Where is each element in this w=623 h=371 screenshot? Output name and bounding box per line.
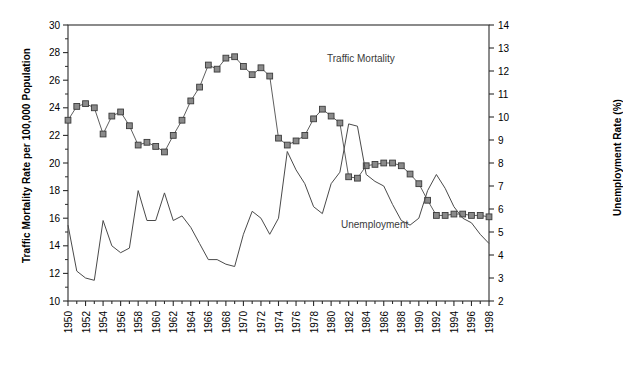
data-point-marker — [346, 174, 352, 180]
data-point-marker — [486, 214, 492, 220]
data-point-marker — [398, 163, 404, 169]
data-point-marker — [469, 213, 475, 219]
right-tick-label: 6 — [498, 204, 504, 215]
data-point-marker — [91, 105, 97, 111]
data-point-marker — [390, 160, 396, 166]
data-point-marker — [109, 113, 115, 119]
right-tick-label: 4 — [498, 250, 504, 261]
x-tick-label: 1960 — [151, 311, 162, 334]
data-point-marker — [337, 120, 343, 126]
x-tick-label: 1962 — [168, 311, 179, 334]
right-tick-label: 9 — [498, 135, 504, 146]
data-point-marker — [118, 109, 124, 115]
right-tick-label: 12 — [498, 66, 510, 77]
data-point-marker — [311, 116, 317, 122]
x-tick-label: 1974 — [274, 311, 285, 334]
left-tick-label: 10 — [49, 296, 61, 307]
left-tick-label: 30 — [49, 20, 61, 31]
x-tick-label: 1986 — [379, 311, 390, 334]
x-tick-label: 1984 — [361, 311, 372, 334]
data-point-marker — [433, 213, 439, 219]
data-point-marker — [477, 213, 483, 219]
right-axis-ticks: 234567891011121314 — [489, 20, 510, 307]
data-point-marker — [284, 142, 290, 148]
right-tick-label: 5 — [498, 227, 504, 238]
left-tick-label: 24 — [49, 102, 61, 113]
right-tick-label: 7 — [498, 181, 504, 192]
left-axis-ticks: 1012141618202224262830 — [49, 20, 68, 307]
data-point-marker — [293, 138, 299, 144]
data-point-marker — [407, 171, 413, 177]
annotation-unemployment: Unemployment — [341, 219, 408, 230]
right-tick-label: 8 — [498, 158, 504, 169]
x-tick-label: 1958 — [133, 311, 144, 334]
data-point-marker — [267, 73, 273, 79]
left-tick-label: 12 — [49, 268, 61, 279]
data-point-marker — [205, 62, 211, 68]
x-tick-label: 1990 — [414, 311, 425, 334]
data-point-marker — [100, 131, 106, 137]
x-tick-label: 1970 — [238, 311, 249, 334]
right-tick-label: 2 — [498, 296, 504, 307]
x-tick-label: 1976 — [291, 311, 302, 334]
data-point-marker — [451, 211, 457, 217]
x-tick-label: 1968 — [221, 311, 232, 334]
left-tick-label: 20 — [49, 158, 61, 169]
data-point-marker — [214, 66, 220, 72]
left-tick-label: 18 — [49, 185, 61, 196]
annotation-traffic-mortality: Traffic Mortality — [327, 53, 395, 64]
data-point-marker — [249, 72, 255, 78]
data-point-marker — [153, 144, 159, 150]
series-annotations: Traffic MortalityUnemployment — [327, 53, 408, 230]
left-tick-label: 16 — [49, 213, 61, 224]
x-tick-label: 1972 — [256, 311, 267, 334]
left-tick-label: 26 — [49, 75, 61, 86]
data-point-marker — [241, 64, 247, 70]
data-point-marker — [276, 135, 282, 141]
x-axis-ticks: 1950195219541956195819601962196419661968… — [63, 301, 495, 333]
right-tick-label: 3 — [498, 273, 504, 284]
left-tick-label: 28 — [49, 47, 61, 58]
x-tick-label: 1988 — [396, 311, 407, 334]
x-tick-label: 1992 — [431, 311, 442, 334]
right-tick-label: 11 — [498, 89, 509, 100]
x-tick-label: 1978 — [309, 311, 320, 334]
x-tick-label: 1950 — [63, 311, 74, 334]
x-tick-label: 1994 — [449, 311, 460, 334]
x-tick-label: 1952 — [81, 311, 92, 334]
data-point-marker — [319, 106, 325, 112]
x-tick-label: 1980 — [326, 311, 337, 334]
data-point-marker — [179, 117, 185, 123]
left-tick-label: 14 — [49, 240, 61, 251]
data-point-marker — [74, 104, 80, 110]
data-point-marker — [258, 65, 264, 71]
data-point-marker — [223, 55, 229, 61]
data-point-marker — [127, 123, 133, 129]
data-point-marker — [355, 175, 361, 181]
data-point-marker — [65, 117, 71, 123]
left-tick-label: 22 — [49, 130, 61, 141]
data-point-marker — [232, 54, 238, 60]
x-tick-label: 1954 — [98, 311, 109, 334]
data-point-marker — [197, 84, 203, 90]
right-tick-label: 13 — [498, 43, 510, 54]
data-point-marker — [135, 142, 141, 148]
data-point-marker — [188, 98, 194, 104]
data-point-marker — [144, 139, 150, 145]
right-tick-label: 10 — [498, 112, 510, 123]
data-point-marker — [372, 161, 378, 167]
data-point-marker — [170, 133, 176, 139]
x-tick-label: 1982 — [344, 311, 355, 334]
x-tick-label: 1964 — [186, 311, 197, 334]
x-tick-label: 1998 — [484, 311, 495, 334]
data-point-marker — [162, 149, 168, 155]
data-point-marker — [442, 213, 448, 219]
data-point-marker — [83, 101, 89, 107]
data-point-marker — [302, 133, 308, 139]
x-tick-label: 1966 — [203, 311, 214, 334]
data-point-marker — [381, 160, 387, 166]
data-point-marker — [416, 181, 422, 187]
axes-group — [68, 25, 489, 301]
